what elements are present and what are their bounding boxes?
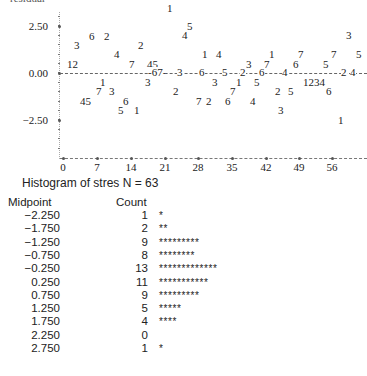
- x-axis: [60, 158, 367, 159]
- y-minor-tick: [58, 54, 60, 55]
- data-point-label: 3: [212, 77, 218, 88]
- data-point-label: 7: [331, 49, 337, 60]
- histogram-row: −1.2509*********: [0, 236, 367, 249]
- histogram-title: Histogram of stres N = 63: [22, 176, 158, 190]
- x-major-tick: [265, 157, 268, 160]
- histogram-bar: ****: [159, 315, 177, 328]
- x-tick-label: 35: [222, 161, 242, 173]
- data-point-label: 5: [356, 49, 362, 60]
- x-major-tick: [231, 157, 234, 160]
- data-point-label: 3: [74, 40, 80, 51]
- data-point-label: 3: [246, 59, 252, 70]
- data-point-label: 12: [67, 59, 78, 70]
- midpoint-value: −0.250: [0, 262, 60, 275]
- histogram-header: Midpoint Count: [0, 196, 367, 209]
- y-minor-tick: [58, 35, 60, 36]
- data-point-label: 7: [96, 86, 102, 97]
- data-point-label: 4: [114, 49, 120, 60]
- zero-line-point-label: 6: [199, 67, 205, 78]
- data-point-label: 5: [288, 86, 294, 97]
- x-tick-label: 42: [256, 161, 276, 173]
- zero-reference-line: [60, 73, 367, 74]
- x-major-tick: [62, 157, 65, 160]
- y-minor-tick: [58, 44, 60, 45]
- y-minor-tick: [58, 63, 60, 64]
- data-point-label: 4: [250, 96, 256, 107]
- zero-line-point-label: 2: [240, 67, 246, 78]
- count-value: 9: [118, 289, 148, 302]
- count-value: 5: [118, 302, 148, 315]
- histogram-row: 1.2505*****: [0, 302, 367, 315]
- x-major-tick: [331, 157, 334, 160]
- data-point-label: 1: [167, 3, 173, 14]
- y-tick-label: −2.50: [0, 114, 48, 126]
- header-count: Count: [116, 196, 147, 209]
- x-major-tick: [130, 157, 133, 160]
- y-minor-tick: [58, 101, 60, 102]
- histogram-row: −0.25013*************: [0, 262, 367, 275]
- data-point-label: 4: [182, 30, 188, 41]
- x-major-tick: [164, 157, 167, 160]
- y-minor-tick: [58, 16, 60, 17]
- count-value: 8: [118, 249, 148, 262]
- y-tick-label: 0.00: [0, 67, 48, 79]
- midpoint-value: 1.250: [0, 302, 60, 315]
- histogram-bar: *: [159, 342, 164, 355]
- data-point-label: 5: [118, 105, 124, 116]
- x-major-tick: [96, 157, 99, 160]
- x-tick-label: 56: [322, 161, 342, 173]
- midpoint-value: 0.250: [0, 276, 60, 289]
- data-point-label: 1: [134, 105, 140, 116]
- truncated-footer-text: [0, 369, 367, 376]
- y-minor-tick: [58, 110, 60, 111]
- count-value: 13: [118, 262, 148, 275]
- data-point-label: 4: [216, 49, 222, 60]
- histogram-bar: ***********: [159, 276, 208, 289]
- y-minor-tick: [58, 129, 60, 130]
- zero-line-point-label: 2: [341, 67, 347, 78]
- data-point-label: 1234: [303, 77, 325, 88]
- data-point-label: 2: [206, 96, 212, 107]
- midpoint-value: −1.750: [0, 222, 60, 235]
- data-point-label: 7: [196, 96, 202, 107]
- zero-line-point-label: 4: [282, 67, 288, 78]
- data-point-label: 7: [129, 59, 135, 70]
- histogram-row: 0.7509*********: [0, 289, 367, 302]
- histogram-row: −0.7508********: [0, 249, 367, 262]
- header-midpoint: Midpoint: [8, 196, 51, 209]
- midpoint-value: −1.250: [0, 236, 60, 249]
- x-major-tick: [298, 157, 301, 160]
- midpoint-value: −0.750: [0, 249, 60, 262]
- zero-line-point-label: -67-: [148, 67, 166, 78]
- histogram-bar: *********: [159, 289, 199, 302]
- data-point-label: 2: [104, 31, 110, 42]
- data-point-label: 6: [89, 31, 95, 42]
- histogram-bar: **: [159, 222, 168, 235]
- histogram-row: 2.2500: [0, 329, 367, 342]
- zero-line-point-label: 3: [177, 67, 183, 78]
- y-major-tick: [58, 119, 61, 122]
- y-minor-tick: [58, 138, 60, 139]
- data-point-label: 3: [145, 77, 151, 88]
- data-point-label: 6: [326, 86, 332, 97]
- data-point-label: 1: [236, 77, 242, 88]
- y-axis-title: residual: [10, 0, 45, 4]
- x-tick-label: 14: [121, 161, 141, 173]
- midpoint-value: 2.250: [0, 329, 60, 342]
- histogram-bar: *************: [159, 262, 217, 275]
- count-value: 9: [118, 236, 148, 249]
- histogram-row: −1.7502**: [0, 222, 367, 235]
- count-value: 11: [118, 276, 148, 289]
- x-tick-label: 28: [188, 161, 208, 173]
- data-point-label: 6: [225, 96, 231, 107]
- midpoint-value: −2.250: [0, 209, 60, 222]
- x-major-tick: [197, 157, 200, 160]
- count-value: 1: [118, 342, 148, 355]
- zero-line-point-label: 5: [222, 67, 228, 78]
- histogram-row: 1.7504****: [0, 315, 367, 328]
- midpoint-value: 0.750: [0, 289, 60, 302]
- data-point-label: 2: [173, 86, 179, 97]
- data-point-label: 3: [278, 105, 284, 116]
- y-minor-tick: [58, 148, 60, 149]
- y-minor-tick: [58, 82, 60, 83]
